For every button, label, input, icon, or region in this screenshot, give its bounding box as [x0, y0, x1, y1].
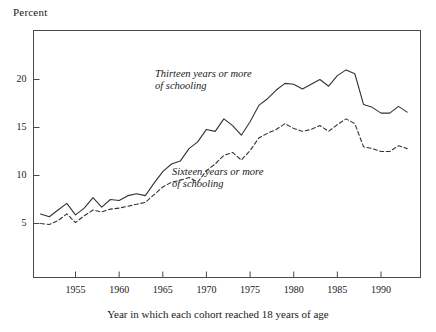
annotation-thirteen-years: Thirteen years or more of schooling — [155, 68, 252, 92]
x-tick-label: 1965 — [143, 284, 183, 295]
y-tick-label: 15 — [5, 121, 27, 132]
x-tick-label: 1970 — [186, 284, 226, 295]
y-tick-label: 5 — [5, 217, 27, 228]
x-tick-label: 1960 — [99, 284, 139, 295]
annotation-thirteen-line2: of schooling — [155, 80, 252, 92]
x-tick-label: 1975 — [230, 284, 270, 295]
x-tick-label: 1980 — [274, 284, 314, 295]
annotation-thirteen-line1: Thirteen years or more — [155, 68, 252, 80]
x-tick-label: 1990 — [361, 284, 401, 295]
annotation-sixteen-years: Sixteen years or more of schooling — [172, 166, 263, 190]
x-tick-label: 1985 — [317, 284, 357, 295]
x-tick-label: 1955 — [56, 284, 96, 295]
annotation-sixteen-line2: of schooling — [172, 178, 263, 190]
x-axis-title: Year in which each cohort reached 18 yea… — [0, 308, 436, 320]
x-axis-ticks — [76, 272, 382, 278]
y-tick-label: 20 — [5, 73, 27, 84]
annotation-sixteen-line1: Sixteen years or more — [172, 166, 263, 178]
chart-figure: Percent 5101520 195519601965197019751980… — [0, 0, 436, 332]
y-tick-label: 10 — [5, 169, 27, 180]
y-axis-ticks — [34, 80, 40, 224]
